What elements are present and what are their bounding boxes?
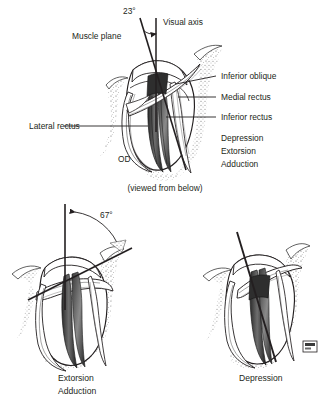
angle-label-23: 23° [123,6,136,16]
action-extorsion-main: Extorsion [221,146,256,156]
label-muscle-plane: Muscle plane [72,31,122,41]
caption-viewed-from-below: (viewed from below) [128,183,203,193]
action-adduction-main: Adduction [221,159,259,169]
label-inferior-rectus: Inferior rectus [221,112,272,122]
label-visual-axis: Visual axis [163,17,203,27]
main-panel-illustration [64,18,223,181]
figure-svg: 23° Muscle plane Visual axis Lateral rec… [0,0,331,404]
label-inferior-oblique: Inferior oblique [221,71,277,81]
muscle-block-right [249,275,270,300]
label-lateral-rectus: Lateral rectus [29,121,80,131]
caption-extorsion-left: Extorsion [58,373,94,383]
action-depression-main: Depression [221,133,264,143]
bottom-right-panel-illustration [203,232,317,369]
anatomical-figure: 23° Muscle plane Visual axis Lateral rec… [0,0,331,404]
label-medial-rectus: Medial rectus [221,92,271,102]
bottom-left-panel-illustration [12,204,132,371]
angle-label-67: 67° [100,210,113,220]
artist-stamp-icon [303,341,317,352]
caption-adduction-left: Adduction [58,386,96,396]
label-od: OD [118,154,131,164]
caption-depression-right: Depression [239,373,283,383]
